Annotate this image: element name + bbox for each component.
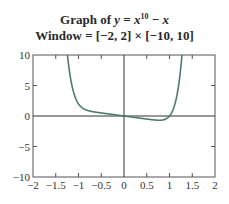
- x-tick-label: 0.5: [140, 179, 154, 191]
- x-tick-label: 1.5: [185, 179, 199, 191]
- x-tick-label: 2: [212, 179, 218, 191]
- y-tick-label: 10: [19, 49, 31, 61]
- x-tick-label: 0: [121, 179, 127, 191]
- y-tick-label: −10: [13, 171, 31, 183]
- x-tick-label: −1.5: [46, 179, 66, 191]
- x-tick-label: −0.5: [91, 179, 111, 191]
- y-tick-label: 0: [25, 110, 31, 122]
- y-tick-label: 5: [25, 80, 31, 92]
- plot-area: −2−1.5−1−0.500.511.52−10−50510: [0, 0, 229, 204]
- x-tick-label: −1: [73, 179, 85, 191]
- x-tick-label: 1: [167, 179, 173, 191]
- y-tick-label: −5: [18, 141, 30, 153]
